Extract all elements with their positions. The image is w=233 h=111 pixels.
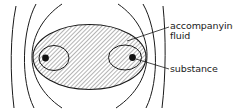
substance-dot-left [42,55,49,62]
leader-line-fluid [127,27,169,41]
label-accompanying-line2: fluid [170,31,233,41]
diagram-canvas [0,0,233,111]
label-accompanying-fluid: accompanying fluid [170,21,233,41]
accompanying-fluid-ellipse [33,25,146,90]
substance-dot-right [129,54,136,61]
label-substance: substance [170,64,218,74]
flow-line-right-outer [162,6,165,108]
flow-line-left-outer [11,6,16,108]
